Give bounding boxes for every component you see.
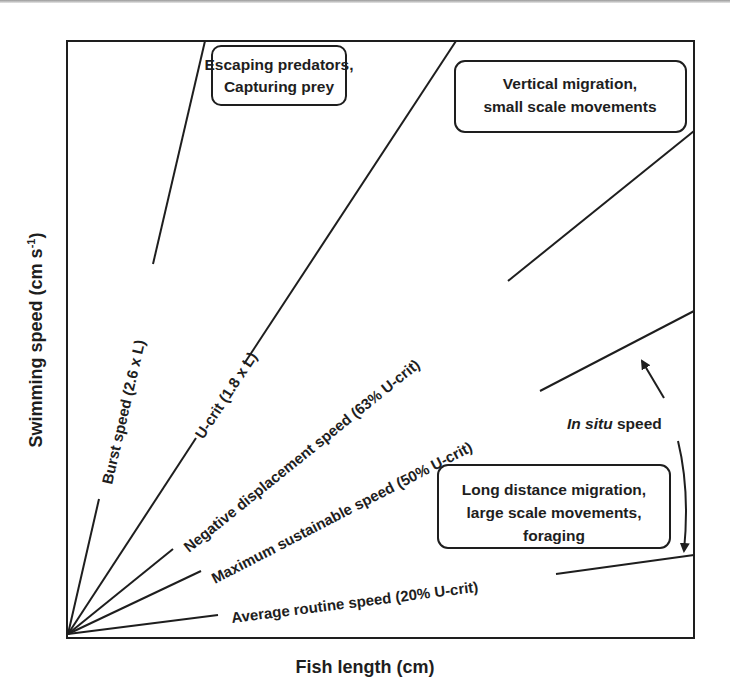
- in-situ-italic: In situ: [567, 415, 613, 432]
- in-situ-arrow-up-icon: [642, 361, 664, 398]
- vertical-migration-box: Vertical migration, small scale movement…: [455, 61, 686, 132]
- in-situ-arrow-down-icon: [678, 441, 686, 551]
- y-axis-title-close: ): [26, 233, 46, 239]
- y-axis-title-main: Swimming speed (cm s: [26, 248, 46, 447]
- long-distance-line2: large scale movements,: [467, 504, 642, 521]
- long-distance-box: Long distance migration, large scale mov…: [438, 465, 670, 548]
- escaping-predators-box: Escaping predators, Capturing prey: [204, 46, 353, 105]
- average-routine-label: Average routine speed (20% U-crit): [230, 578, 479, 626]
- in-situ-speed-label: In situ speed: [567, 415, 662, 432]
- long-distance-line3: foraging: [523, 527, 585, 544]
- burst-speed-label: Burst speed (2.6 x L): [98, 338, 148, 486]
- maximum-sustainable-label: Maximum sustainable speed (50% U-crit): [209, 438, 475, 587]
- x-axis-title: Fish length (cm): [296, 657, 435, 677]
- vertical-migration-line2: small scale movements: [483, 98, 656, 115]
- y-axis-title: Swimming speed (cm s-1): [25, 233, 46, 448]
- y-axis-title-superscript: -1: [25, 239, 37, 249]
- ucrit-label: U-crit (1.8 x L): [191, 349, 260, 442]
- in-situ-rest: speed: [613, 415, 662, 432]
- escaping-predators-line2: Capturing prey: [224, 78, 335, 95]
- swimming-speed-diagram: Burst speed (2.6 x L) U-crit (1.8 x L) N…: [0, 0, 730, 698]
- vertical-migration-line1: Vertical migration,: [503, 75, 637, 92]
- escaping-predators-line1: Escaping predators,: [204, 56, 353, 73]
- long-distance-line1: Long distance migration,: [462, 481, 646, 498]
